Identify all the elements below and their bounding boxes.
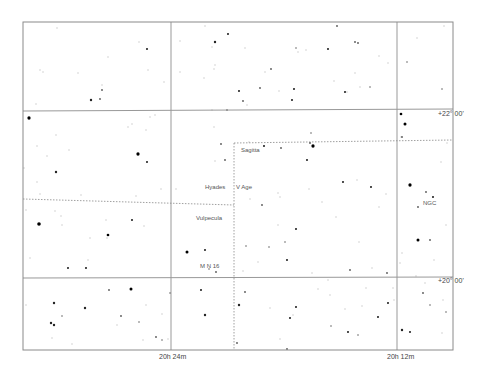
faint-star xyxy=(149,116,150,117)
faint-star xyxy=(105,219,106,220)
faint-star xyxy=(131,123,132,124)
star xyxy=(263,145,265,147)
star xyxy=(342,181,344,183)
faint-star xyxy=(392,287,393,288)
star xyxy=(146,161,148,163)
faint-star xyxy=(179,40,180,41)
star xyxy=(53,302,55,304)
faint-star xyxy=(279,338,280,339)
object-label-ngc: NGC xyxy=(423,200,436,206)
faint-star xyxy=(127,126,128,127)
faint-star xyxy=(80,194,81,195)
faint-star xyxy=(175,188,176,189)
faint-star xyxy=(269,307,270,308)
faint-star xyxy=(333,80,334,81)
faint-star xyxy=(56,27,57,28)
star xyxy=(236,342,238,344)
object-label-hyades: Hyades xyxy=(205,184,225,190)
faint-star xyxy=(440,161,441,162)
star xyxy=(270,68,272,70)
faint-star xyxy=(25,209,26,210)
faint-star xyxy=(154,114,155,115)
star xyxy=(429,239,431,241)
faint-star xyxy=(415,275,416,276)
faint-star xyxy=(365,287,366,288)
star xyxy=(131,219,133,221)
faint-star xyxy=(359,86,360,87)
constellation-boundaries xyxy=(23,140,453,350)
faint-star xyxy=(23,167,24,168)
star xyxy=(347,331,349,333)
star xyxy=(291,99,293,101)
star xyxy=(155,336,157,338)
faint-star xyxy=(116,324,117,325)
faint-star xyxy=(106,237,107,238)
star xyxy=(242,100,244,102)
star xyxy=(215,271,217,273)
faint-star xyxy=(335,216,336,217)
star xyxy=(400,113,403,116)
star xyxy=(408,183,411,186)
faint-star xyxy=(446,142,447,143)
faint-star xyxy=(378,55,379,56)
faint-star xyxy=(138,41,139,42)
faint-star xyxy=(393,299,394,300)
star xyxy=(344,91,346,93)
faint-star xyxy=(29,257,30,258)
faint-star xyxy=(249,198,250,199)
star xyxy=(220,143,222,145)
ra-label-right: 20h 12m xyxy=(387,353,414,360)
star xyxy=(261,204,263,206)
faint-star xyxy=(321,201,322,202)
faint-star xyxy=(36,145,37,146)
faint-star xyxy=(35,103,36,104)
faint-star xyxy=(42,71,43,72)
faint-star xyxy=(87,259,88,260)
star xyxy=(422,292,424,294)
star xyxy=(99,98,101,100)
star xyxy=(295,306,297,308)
star xyxy=(386,272,388,274)
faint-star xyxy=(399,262,400,263)
star xyxy=(136,152,139,155)
faint-star xyxy=(327,279,328,280)
faint-star xyxy=(214,160,215,161)
star xyxy=(377,316,379,318)
faint-star xyxy=(277,192,278,193)
faint-star xyxy=(51,337,52,338)
faint-star xyxy=(211,46,212,47)
star xyxy=(404,123,407,126)
faint-star xyxy=(246,104,247,105)
dec-grid-line xyxy=(23,109,453,111)
faint-star xyxy=(68,149,69,150)
star xyxy=(107,234,110,237)
faint-star xyxy=(39,69,40,70)
star xyxy=(295,228,297,230)
faint-star xyxy=(433,259,434,260)
faint-star xyxy=(387,62,388,63)
star xyxy=(146,48,148,50)
faint-star xyxy=(143,225,144,226)
faint-star xyxy=(378,206,379,207)
star xyxy=(441,88,443,90)
object-label-mn16: M N 16 xyxy=(200,263,219,269)
faint-star xyxy=(297,51,298,52)
faint-star xyxy=(279,196,280,197)
star xyxy=(85,267,87,269)
star xyxy=(227,33,229,35)
faint-star xyxy=(101,84,102,85)
object-label-sagitta: Sagitta xyxy=(241,147,260,153)
star xyxy=(417,239,420,242)
faint-star xyxy=(71,343,72,344)
star xyxy=(310,132,312,134)
star xyxy=(354,41,356,43)
star xyxy=(55,171,57,173)
faint-star xyxy=(371,267,372,268)
faint-star xyxy=(55,134,56,135)
star xyxy=(130,288,133,291)
star xyxy=(204,249,206,251)
star xyxy=(417,206,419,208)
star xyxy=(370,186,372,188)
faint-star xyxy=(445,224,446,225)
star xyxy=(349,269,351,271)
